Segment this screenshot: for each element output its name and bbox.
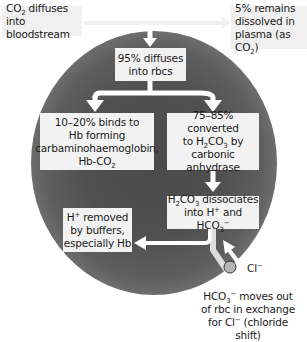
dissolved-plasma-box: 5% remains dissolved in plasma (as CO2) xyxy=(231,6,307,49)
dissolved-line1: 5% remains xyxy=(235,2,295,15)
chloride-ion-icon xyxy=(224,261,236,273)
dissolved-line2: dissolved in xyxy=(235,15,295,28)
co2-entry-line1: CO2 diffuses xyxy=(6,2,68,15)
chloride-shift-line1: HCO3− moves out xyxy=(200,290,296,303)
chloride-shift-line3: for Cl− (chloride shift) xyxy=(200,316,296,342)
arrow-to-dissociation xyxy=(205,171,221,192)
dissociation-line2: into H+ and HCO3− xyxy=(167,206,259,232)
buffers-box: H+ removed by buffers, especially Hb xyxy=(63,208,132,252)
carbonic-anhydrase-box: 75–85% converted to H2CO3 by carbonic an… xyxy=(167,113,259,170)
chloride-shift-caption: HCO3− moves out of rbc in exchange for C… xyxy=(200,290,296,342)
carbamino-line3: carbaminohaemoglobin, xyxy=(35,142,158,155)
carbamino-line4: Hb-CO2 xyxy=(78,155,115,168)
chloride-label: Cl− xyxy=(247,262,267,275)
dissociation-box: H2CO3 dissociates into H+ and HCO3− xyxy=(167,196,259,229)
dissociation-line1: H2CO3 dissociates xyxy=(168,193,259,206)
arrow-split xyxy=(95,80,213,101)
arrow-to-plasma xyxy=(84,17,231,29)
carbonic-line2: to H2CO3 by xyxy=(183,135,243,148)
co2-entry-box: CO2 diffuses into bloodstream xyxy=(2,6,82,36)
carbamino-line1: 10–20% binds to xyxy=(55,116,140,129)
carbonic-line3: carbonic anhydrase xyxy=(167,148,259,174)
buffers-line3: especially Hb xyxy=(64,237,132,250)
arrow-head-left xyxy=(86,100,104,112)
buffers-line1: H+ removed xyxy=(67,211,129,224)
carbonic-line1: 75–85% converted xyxy=(167,109,259,135)
arrow-cl-in xyxy=(223,240,238,262)
chloride-shift-line2: of rbc in exchange xyxy=(200,303,296,316)
carbamino-box: 10–20% binds to Hb forming carbaminohaem… xyxy=(40,113,154,170)
arrow-into-rbc xyxy=(143,26,157,47)
arrow-head-buffers xyxy=(134,236,146,250)
carbamino-line2: Hb forming xyxy=(69,129,126,142)
buffers-line2: by buffers, xyxy=(70,224,124,237)
rbc-entry-box: 95% diffuses into rbcs xyxy=(115,48,186,81)
rbc-entry-line1: 95% diffuses xyxy=(118,52,183,65)
rbc-entry-line2: into rbcs xyxy=(129,65,173,78)
co2-entry-line2: into bloodstream xyxy=(6,15,82,41)
dissolved-line3: plasma (as CO2) xyxy=(235,28,307,54)
